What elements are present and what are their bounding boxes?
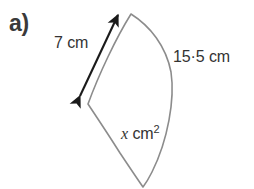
area-exponent: 2 [154,123,160,135]
area-unit: cm [132,125,153,142]
area-variable: x [121,125,128,142]
figure-container: a) 7 cm 15·5 cm x cm2 [0,0,254,189]
label-arc-length: 15·5 cm [173,49,230,65]
label-area: x cm2 [121,126,160,142]
label-radius-length: 7 cm [54,35,88,51]
part-label: a) [9,12,29,35]
sector-outline [88,14,172,187]
sector-diagram [0,0,254,189]
